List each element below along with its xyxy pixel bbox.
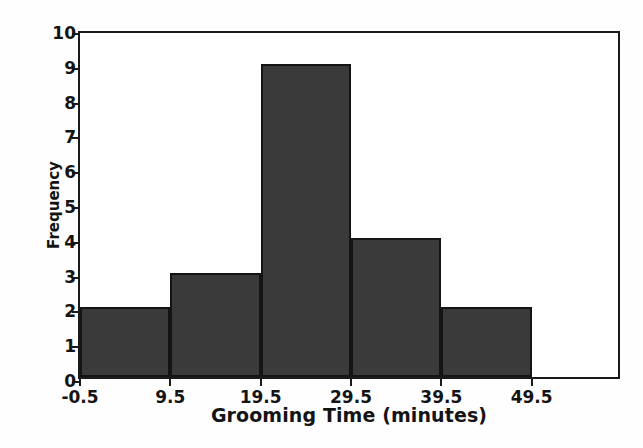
x-tick-mark bbox=[169, 377, 171, 386]
y-tick-label: 1 bbox=[64, 338, 76, 355]
y-axis-title: Frequency bbox=[45, 161, 63, 249]
y-tick-label: 4 bbox=[64, 233, 76, 250]
histogram-figure: Frequency 012345678910 -0.59.519.529.539… bbox=[0, 0, 643, 448]
x-tick-mark bbox=[79, 377, 81, 386]
histogram-bar bbox=[261, 64, 351, 377]
histogram-bar bbox=[441, 307, 531, 377]
y-tick-label: 9 bbox=[64, 59, 76, 76]
y-tick-label: 2 bbox=[64, 303, 76, 320]
plot-area: 012345678910 -0.59.519.529.539.549.5 bbox=[78, 31, 620, 379]
x-tick-mark bbox=[531, 377, 533, 386]
x-tick-mark bbox=[260, 377, 262, 386]
y-tick-label: 6 bbox=[64, 164, 76, 181]
histogram-bar bbox=[351, 238, 441, 377]
y-tick-label: 7 bbox=[64, 129, 76, 146]
x-tick-mark bbox=[350, 377, 352, 386]
histogram-bar bbox=[80, 307, 170, 377]
y-tick-label: 3 bbox=[64, 268, 76, 285]
y-tick-label: 5 bbox=[64, 199, 76, 216]
histogram-bar bbox=[170, 273, 260, 377]
y-tick-label: 10 bbox=[52, 25, 76, 42]
x-axis-title: Grooming Time (minutes) bbox=[78, 404, 620, 426]
y-tick-label: 8 bbox=[64, 94, 76, 111]
x-tick-mark bbox=[440, 377, 442, 386]
